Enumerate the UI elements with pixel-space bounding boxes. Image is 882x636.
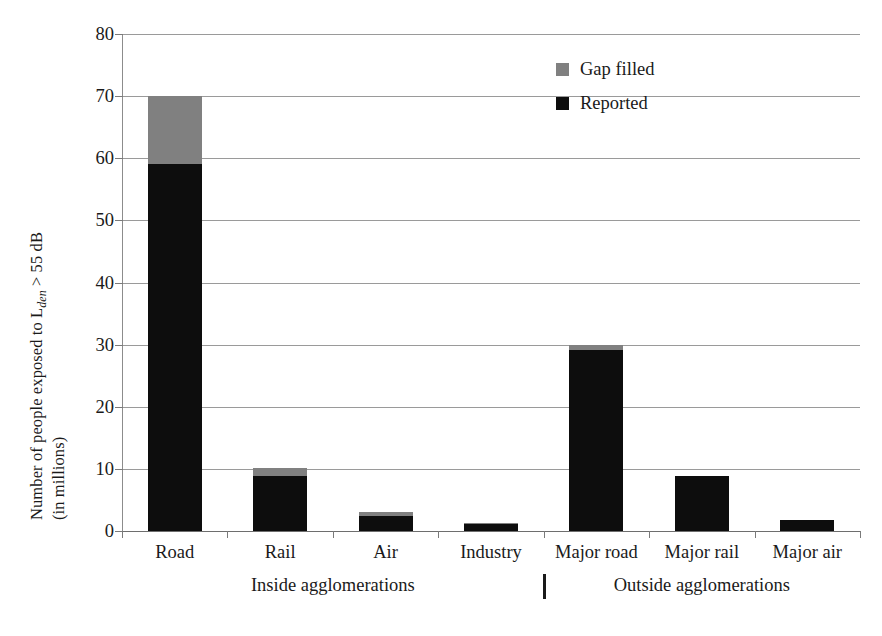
group-separator	[543, 574, 546, 599]
bar-segment-gap-filled	[148, 96, 202, 164]
y-tick-label-60: 60	[74, 149, 114, 168]
bar-segment-reported	[359, 516, 413, 531]
y-tickmark-10	[115, 469, 123, 470]
legend-swatch-reported-icon	[556, 97, 569, 110]
gridline-50	[122, 220, 860, 221]
x-category-label-major-rail: Major rail	[649, 540, 754, 564]
x-tickmark-6	[755, 531, 756, 538]
legend-item-gap-filled: Gap filled	[556, 52, 776, 86]
bar-road	[148, 96, 202, 531]
legend-label-gap-filled: Gap filled	[580, 60, 655, 79]
bar-segment-gap-filled	[359, 512, 413, 516]
bar-segment-reported	[253, 476, 307, 531]
y-tickmark-80	[115, 34, 123, 35]
bar-air	[359, 512, 413, 531]
gridline-40	[122, 283, 860, 284]
x-tickmark-1	[227, 531, 228, 538]
x-tickmark-4	[544, 531, 545, 538]
bar-segment-reported	[675, 476, 729, 531]
x-group-label-inside: Inside agglomerations	[122, 572, 544, 598]
legend-label-reported: Reported	[580, 94, 648, 113]
x-category-label-major-air: Major air	[755, 540, 860, 564]
legend: Gap filled Reported	[556, 52, 776, 120]
gridline-60	[122, 158, 860, 159]
x-tickmark-2	[333, 531, 334, 538]
x-category-label-air: Air	[333, 540, 438, 564]
x-category-label-industry: Industry	[438, 540, 543, 564]
bar-industry	[464, 523, 518, 531]
y-tickmark-30	[115, 345, 123, 346]
y-tick-label-0: 0	[74, 522, 114, 541]
y-tick-label-40: 40	[74, 273, 114, 292]
bar-segment-reported	[464, 524, 518, 531]
y-tickmark-40	[115, 283, 123, 284]
bar-segment-gap-filled	[253, 468, 307, 476]
chart-figure: Number of people exposed to Lden > 55 dB…	[0, 0, 882, 636]
bar-segment-gap-filled	[464, 523, 518, 524]
gridline-20	[122, 407, 860, 408]
y-axis-title-line-2: (in millions)	[48, 437, 69, 520]
bar-rail	[253, 468, 307, 531]
y-tick-label-70: 70	[74, 87, 114, 106]
y-tickmark-50	[115, 220, 123, 221]
bar-major-air	[780, 520, 834, 531]
bar-major-road	[569, 345, 623, 531]
x-tickmark-5	[649, 531, 650, 538]
bar-segment-reported	[148, 164, 202, 531]
bar-major-rail	[675, 476, 729, 531]
x-tickmark-0	[122, 531, 123, 538]
y-tick-label-50: 50	[74, 211, 114, 230]
y-axis-title: Number of people exposed to Lden > 55 dB…	[0, 0, 62, 560]
y-axis-title-subscript: den	[27, 290, 46, 307]
gridline-80	[122, 34, 860, 35]
gridline-30	[122, 345, 860, 346]
x-group-label-outside: Outside agglomerations	[544, 572, 860, 598]
gridline-0	[122, 531, 860, 532]
legend-swatch-gap-filled-icon	[556, 63, 569, 76]
x-tickmark-7	[860, 531, 861, 538]
bar-segment-reported	[569, 350, 623, 531]
x-category-label-rail: Rail	[227, 540, 332, 564]
x-axis-category-labels: RoadRailAirIndustryMajor roadMajor railM…	[122, 540, 860, 572]
y-tickmark-70	[115, 96, 123, 97]
y-tickmark-20	[115, 407, 123, 408]
x-tickmark-3	[438, 531, 439, 538]
x-category-label-road: Road	[122, 540, 227, 564]
y-tick-label-30: 30	[74, 335, 114, 354]
x-category-label-major-road: Major road	[544, 540, 649, 564]
gridline-10	[122, 469, 860, 470]
y-axis-title-tail: > 55 dB	[27, 232, 46, 290]
x-axis-group-labels: Inside agglomerationsOutside agglomerati…	[122, 572, 860, 606]
y-axis-title-text: Number of people exposed to L	[27, 308, 46, 520]
y-axis-tick-labels: 01020304050607080	[68, 0, 114, 636]
bar-segment-gap-filled	[569, 345, 623, 349]
y-tickmark-60	[115, 158, 123, 159]
bar-segment-reported	[780, 520, 834, 531]
y-tick-label-80: 80	[74, 25, 114, 44]
y-tick-label-10: 10	[74, 460, 114, 479]
legend-item-reported: Reported	[556, 86, 776, 120]
y-tick-label-20: 20	[74, 398, 114, 417]
